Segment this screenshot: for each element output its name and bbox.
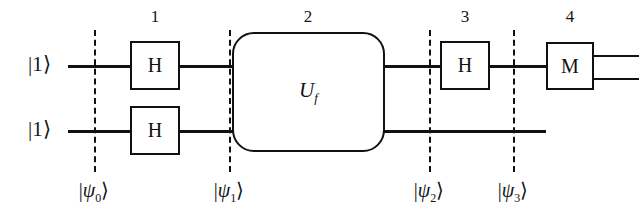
wire-top-segment-h-to-m [488,65,548,68]
gate-label: M [561,55,579,78]
state-label-index: 0 [95,191,101,205]
gate-label: H [148,119,162,142]
gate-hadamard-top-2[interactable]: H [440,41,490,90]
input-ket-bottom: |1⟩ [28,119,51,140]
state-label-psi0: |ψ0⟩ [64,180,124,204]
state-label-psi2: |ψ2⟩ [399,180,459,204]
gate-measurement[interactable]: M [546,42,594,90]
oracle-label: Uf [299,78,318,106]
state-label-symbol: ψ [418,179,430,201]
gate-hadamard-bottom[interactable]: H [130,106,180,155]
step-number-2: 2 [288,8,328,25]
separator-psi3 [513,30,515,172]
wire-bottom-segment-h-to-uf [178,130,234,133]
state-label-symbol: ψ [218,179,230,201]
oracle-label-main: U [299,78,314,102]
state-label-index: 2 [430,191,436,205]
step-number-4: 4 [550,8,590,25]
gate-label: H [458,54,472,77]
gate-label: H [148,54,162,77]
gate-oracle-uf[interactable]: Uf [232,32,385,152]
separator-psi1 [229,30,231,172]
measurement-output-lead-lower [593,78,639,80]
state-label-index: 3 [514,191,520,205]
measurement-output-lead-upper [593,55,639,57]
input-ket-top: |1⟩ [28,54,51,75]
state-label-symbol: ψ [502,179,514,201]
state-label-symbol: ψ [83,179,95,201]
wire-top-segment-h-to-uf [178,65,234,68]
gate-hadamard-top[interactable]: H [130,41,180,90]
quantum-circuit-diagram: 1 2 3 4 |1⟩ |1⟩ H H Uf H M |ψ0⟩ |ψ1⟩ |ψ2… [0,0,641,222]
step-number-3: 3 [445,8,485,25]
wire-top-segment-in [68,65,132,68]
separator-psi0 [94,30,96,172]
wire-bottom-segment-in [68,130,132,133]
step-number-1: 1 [135,8,175,25]
state-label-psi1: |ψ1⟩ [199,180,259,204]
state-label-index: 1 [230,191,236,205]
wire-bottom-segment-out [383,130,546,133]
state-label-psi3: |ψ3⟩ [483,180,543,204]
oracle-label-subscript: f [314,90,318,105]
separator-psi2 [429,30,431,172]
wire-top-segment-uf-to-h [383,65,442,68]
